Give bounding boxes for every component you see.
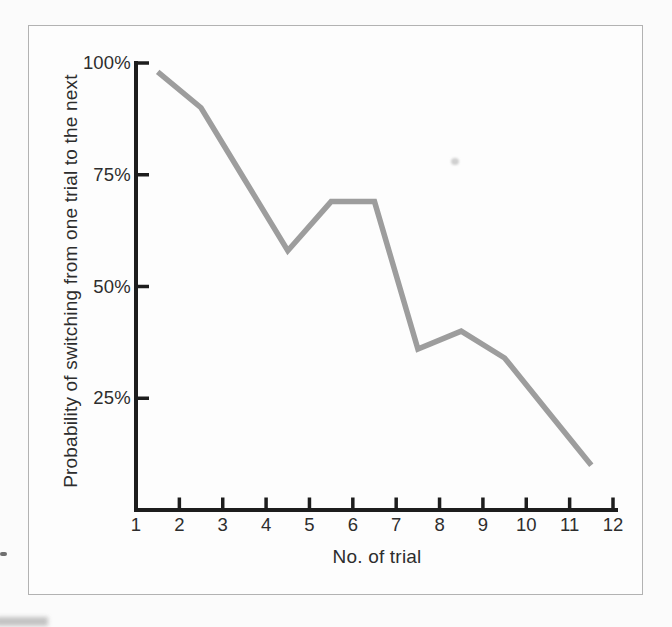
y-tick-label-75%: 75% (61, 165, 131, 185)
y-tick-label-25%: 25% (61, 388, 131, 408)
x-tick-label-5: 5 (291, 515, 327, 535)
scan-artifact-dot (451, 158, 459, 165)
x-tick-label-4: 4 (248, 515, 284, 535)
scanned-figure-page: Probability of switching from one trial … (0, 0, 672, 627)
x-tick-label-3: 3 (205, 515, 241, 535)
scan-artifact-smudge (0, 617, 48, 626)
data-line-probability-of-switching (158, 72, 592, 465)
x-tick-label-6: 6 (335, 515, 371, 535)
x-tick-label-1: 1 (118, 515, 154, 535)
scan-artifact-dash (0, 552, 7, 556)
x-tick-label-7: 7 (378, 515, 414, 535)
x-tick-label-12: 12 (595, 515, 631, 535)
y-tick-label-100%: 100% (61, 53, 131, 73)
y-tick-label-50%: 50% (61, 277, 131, 297)
x-axis-title: No. of trial (136, 546, 618, 568)
x-tick-label-9: 9 (465, 515, 501, 535)
x-tick-label-2: 2 (161, 515, 197, 535)
x-tick-label-11: 11 (552, 515, 588, 535)
x-tick-label-8: 8 (422, 515, 458, 535)
x-tick-label-10: 10 (508, 515, 544, 535)
